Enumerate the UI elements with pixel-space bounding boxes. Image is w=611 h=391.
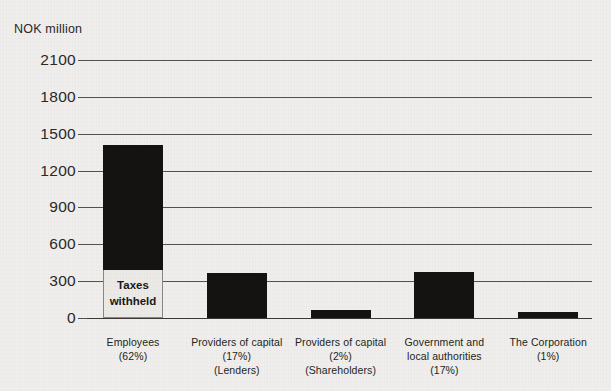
- y-tick-label: 1500: [2, 125, 76, 143]
- y-tick-label: 1800: [2, 88, 76, 106]
- y-tick-mark-1200: [78, 171, 87, 172]
- y-tick-mark-1500: [78, 134, 87, 135]
- x-axis-label-line: (1%): [486, 349, 610, 363]
- y-tick-mark-2100: [78, 60, 87, 61]
- x-axis-label-line: (17%): [382, 363, 506, 377]
- gridline-2100: [86, 60, 592, 61]
- y-tick-mark-1800: [78, 97, 87, 98]
- gridline-1500: [86, 134, 592, 135]
- y-tick-mark-900: [78, 207, 87, 208]
- chart-page: VALUE ADDED CREATED NOK million 03006009…: [0, 0, 611, 391]
- gridline-1800: [86, 97, 592, 98]
- y-tick-label: 600: [2, 235, 76, 253]
- y-tick-label: 1200: [2, 162, 76, 180]
- y-tick-label: 300: [2, 272, 76, 290]
- bar-government-and-local-authorities: [414, 272, 474, 318]
- bar-annotation-taxes-withheld: Taxeswithheld: [103, 270, 163, 318]
- bar-annotation-line: withheld: [110, 294, 157, 310]
- bar-providers-of-capital-lenders: [207, 273, 267, 318]
- y-tick-mark-600: [78, 244, 87, 245]
- bar-employees: [103, 145, 163, 270]
- bar-annotation-line: Taxes: [117, 278, 149, 294]
- y-tick-label: 0: [2, 309, 76, 327]
- y-tick-label: 2100: [2, 51, 76, 69]
- x-axis-label-line: The Corporation: [486, 335, 610, 349]
- y-tick-mark-300: [78, 281, 87, 282]
- x-axis-label-the-corporation: The Corporation(1%): [486, 335, 610, 363]
- y-tick-label: 900: [2, 198, 76, 216]
- bar-providers-of-capital-shareholders: [311, 310, 371, 318]
- bar-the-corporation: [518, 312, 578, 318]
- axis-baseline: [86, 318, 592, 319]
- y-tick-mark-0: [78, 318, 87, 319]
- plot-area: 03006009001200150018002100TaxeswithheldE…: [0, 0, 611, 391]
